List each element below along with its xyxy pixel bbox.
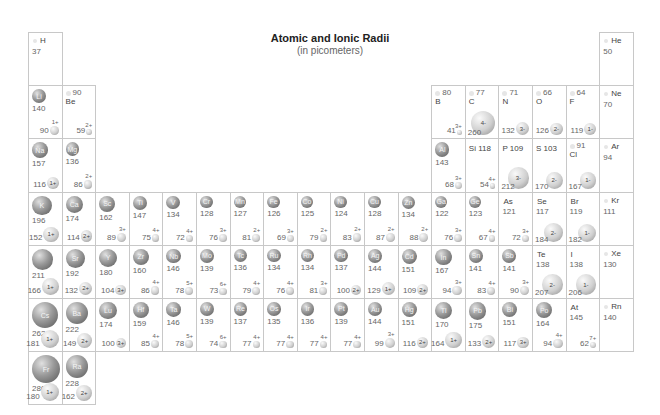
element-symbol: Rn [611,302,621,311]
atomic-radius: 146 [166,318,179,327]
element-cell-sr[interactable]: Sr1922+132 [62,245,97,299]
atom-sphere-icon: Lu [99,302,116,319]
element-cell-i[interactable]: I1381-206 [566,245,601,299]
element-cell-ca[interactable]: Ca1742+114 [62,192,97,246]
element-cell-rb[interactable]: 2111+166 [28,245,63,299]
element-cell-fr[interactable]: Fr2801+180 [28,351,63,405]
element-cell-rn[interactable]: Rn140 [599,298,634,352]
element-cell-be[interactable]: 90Be2+59 [62,85,97,139]
element-cell-b[interactable]: 80B3+41 [431,85,466,139]
element-cell-pd[interactable]: Pd1372+100 [330,245,365,299]
element-cell-bi[interactable]: Bi1513+117 [498,298,533,352]
element-cell-sb[interactable]: Sb1413+90 [498,245,533,299]
atomic-radius: 167 [435,266,448,275]
element-cell-re[interactable]: Re1374+77 [230,298,265,352]
atom-sphere-icon [604,39,608,43]
element-cell-s[interactable]: S 1032-170 [532,138,567,192]
element-symbol: Br [571,197,579,206]
element-cell-mn[interactable]: Mn1272+81 [230,192,265,246]
element-cell-ru[interactable]: Ru1344+76 [263,245,298,299]
atom-sphere-icon: Al [435,142,449,156]
ionic-radius: 59 [76,126,85,135]
element-cell-in[interactable]: In1673+94 [431,245,466,299]
element-symbol: I [571,250,573,259]
element-cell-pt[interactable]: Pt1394+77 [330,298,365,352]
element-cell-c[interactable]: 77C4-260 [465,85,500,139]
element-cell-ta[interactable]: Ta1465+78 [162,298,197,352]
element-cell-se[interactable]: Se1172-184 [532,192,567,246]
element-cell-v[interactable]: V1344+72 [162,192,197,246]
element-cell-li[interactable]: Li1401+90 [28,85,63,139]
element-cell-cu[interactable]: Cu1282+87 [364,192,399,246]
atom-sphere-icon [604,145,608,149]
element-cell-cs[interactable]: Cs2621+181 [28,298,63,352]
element-cell-ni[interactable]: Ni1242+83 [330,192,365,246]
element-cell-sn[interactable]: Sn1414+83 [465,245,500,299]
element-cell-nb[interactable]: Nb1465+78 [162,245,197,299]
element-cell-al[interactable]: Al1433+68 [431,138,466,192]
ion-sphere-icon [553,339,562,348]
element-cell-hf[interactable]: Hf1594+85 [129,298,164,352]
atomic-radius: 136 [234,263,247,272]
element-cell-p[interactable]: P 1093-212 [498,138,533,192]
element-cell-ti[interactable]: Ti1474+75 [129,192,164,246]
element-cell-zr[interactable]: Zr1604+86 [129,245,164,299]
element-cell-sc[interactable]: Sc1623+89 [95,192,130,246]
element-cell-lu[interactable]: Lu1743+100 [95,298,130,352]
element-cell-br[interactable]: Br1191-182 [566,192,601,246]
element-symbol: Be [66,97,76,106]
element-cell-co[interactable]: Co1252+79 [297,192,332,246]
element-cell-h[interactable]: H37 [28,32,63,86]
atom-sphere-icon: Tc [234,249,248,263]
atom-sphere-icon: Bi [502,302,517,317]
element-cell-ir[interactable]: Ir1364+77 [297,298,332,352]
element-cell-xe[interactable]: Xe130 [599,245,634,299]
atomic-radius: 134 [267,263,280,272]
element-cell-ge[interactable]: Ge1234+67 [465,192,500,246]
element-cell-zn[interactable]: Zn1342+88 [398,192,433,246]
element-cell-ra[interactable]: Ra2282+162 [62,351,97,405]
element-cell-ne[interactable]: Ne70 [599,85,634,139]
element-cell-au[interactable]: Au1443+99 [364,298,399,352]
element-cell-cd[interactable]: Cd1512+109 [398,245,433,299]
element-cell-na[interactable]: Na1571+116 [28,138,63,192]
element-cell-mg[interactable]: Mg1362+86 [62,138,97,192]
element-cell-k[interactable]: K1961+152 [28,192,63,246]
element-cell-ar[interactable]: Ar94 [599,138,634,192]
element-cell-at[interactable]: At1457+62 [566,298,601,352]
element-cell-o[interactable]: 66O2-126 [532,85,567,139]
element-cell-pb[interactable]: Pb1752+133 [465,298,500,352]
element-cell-tc[interactable]: Tc1364+79 [230,245,265,299]
element-cell-os[interactable]: Os1354+77 [263,298,298,352]
element-cell-rh[interactable]: Rh1343+81 [297,245,332,299]
element-cell-ba[interactable]: Ba2222+149 [62,298,97,352]
element-cell-as[interactable]: As1213+72 [498,192,533,246]
element-cell-w[interactable]: W1396+74 [196,298,231,352]
element-cell-fe[interactable]: Fe1263+69 [263,192,298,246]
element-cell-he[interactable]: He50 [599,32,634,86]
element-symbol: Ar [611,142,619,151]
element-symbol: P 109 [502,144,523,153]
element-cell-ag[interactable]: Ag1441+129 [364,245,399,299]
element-symbol: Te [537,250,545,259]
ionic-radius: 86 [141,286,150,295]
element-cell-te[interactable]: Te1382-207 [532,245,567,299]
ion-sphere-icon [151,286,160,295]
ionic-radius: 166 [28,286,41,295]
atomic-radius: 222 [66,325,79,334]
element-cell-f[interactable]: 64F1-119 [566,85,601,139]
element-cell-cl[interactable]: 91Cl1-167 [566,138,601,192]
element-cell-tl[interactable]: Tl1701+164 [431,298,466,352]
element-cell-si[interactable]: Si 1184+54 [465,138,500,192]
ion-charge: 3+ [455,227,462,233]
element-cell-hg[interactable]: Hg1512+116 [398,298,433,352]
atom-sphere-icon [502,91,507,96]
element-cell-kr[interactable]: Kr111 [599,192,634,246]
element-cell-cr[interactable]: Cr1283+76 [196,192,231,246]
element-cell-po[interactable]: Po1644+94 [532,298,567,352]
element-cell-mo[interactable]: Mo1396+73 [196,245,231,299]
element-cell-n[interactable]: 71N3-132 [498,85,533,139]
element-cell-y[interactable]: Y1803+104 [95,245,130,299]
element-cell-ga[interactable]: Ga1223+76 [431,192,466,246]
atomic-radius: 122 [435,209,448,218]
